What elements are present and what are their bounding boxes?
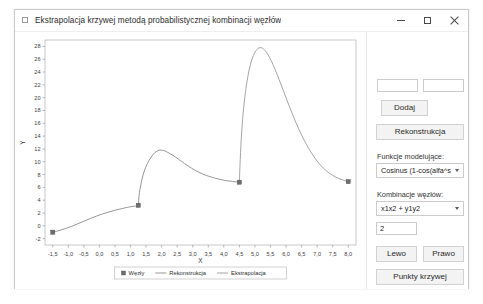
x-tick-label: -0,5 <box>79 251 89 257</box>
x-tick-label: 7,0 <box>313 251 321 257</box>
x-tick-label: 8,0 <box>344 251 352 257</box>
close-icon <box>450 16 459 25</box>
screen: Ekstrapolacja krzywej metodą probabilist… <box>0 0 483 304</box>
right-button[interactable]: Prawo <box>423 246 464 262</box>
y-coordinate-input[interactable] <box>423 79 464 92</box>
x-coordinate-input[interactable] <box>377 79 418 92</box>
node-marker <box>237 180 241 184</box>
y-tick-label: 26 <box>34 56 40 62</box>
add-button[interactable]: Dodaj <box>381 100 428 116</box>
minimize-button[interactable] <box>387 10 414 31</box>
close-button[interactable] <box>441 10 468 31</box>
x-tick-label: -1,0 <box>64 251 74 257</box>
y-tick-label: 10 <box>34 159 40 165</box>
legend-label: Rekonstrukcja <box>169 270 207 276</box>
x-tick-label: 1,5 <box>142 251 150 257</box>
node-marker <box>51 230 55 234</box>
y-tick-label: 28 <box>34 43 40 49</box>
x-tick-label: 2,0 <box>158 251 166 257</box>
reconstruct-button[interactable]: Rekonstrukcja <box>376 124 464 140</box>
title-bar: Ekstrapolacja krzywej metodą probabilist… <box>15 10 468 32</box>
x-tick-label: 3,5 <box>204 251 212 257</box>
chevron-down-icon-2 <box>451 207 463 210</box>
legend-marker <box>122 271 126 275</box>
y-tick-label: 2 <box>37 210 40 216</box>
extrapolation-chart: -1,5-1,0-0,50,00,51,01,52,02,53,03,54,04… <box>17 34 365 281</box>
x-tick-label: 7,5 <box>329 251 337 257</box>
maximize-icon <box>424 17 431 24</box>
x-tick-label: 0,0 <box>96 251 104 257</box>
plot-frame <box>45 40 356 245</box>
x-tick-label: 2,5 <box>173 251 181 257</box>
model-functions-label: Funkcje modelujące: <box>377 152 444 161</box>
y-tick-label: -2 <box>36 236 41 242</box>
node-combination-value: x1x2 + y1y2 <box>377 204 451 213</box>
y-tick-label: 14 <box>34 133 40 139</box>
x-tick-label: 4,5 <box>235 251 243 257</box>
x-tick-label: 6,0 <box>282 251 290 257</box>
node-combination-select[interactable]: x1x2 + y1y2 <box>376 201 464 216</box>
model-functions-select[interactable]: Cosinus (1-cos(alfa^s " ... <box>376 163 464 178</box>
window-title: Ekstrapolacja krzywej metodą probabilist… <box>35 16 281 25</box>
x-tick-label: 3,0 <box>189 251 197 257</box>
y-tick-label: 6 <box>37 184 40 190</box>
maximize-button[interactable] <box>414 10 441 31</box>
x-tick-label: -1,5 <box>48 251 58 257</box>
y-tick-label: 16 <box>34 120 40 126</box>
model-functions-value: Cosinus (1-cos(alfa^s " ... <box>377 166 451 175</box>
app-icon <box>21 16 30 25</box>
x-tick-label: 5,0 <box>251 251 259 257</box>
node-combination-label: Kombinacje węzłów: <box>377 190 443 199</box>
x-tick-label: 5,5 <box>267 251 275 257</box>
parameter-input[interactable] <box>376 222 417 235</box>
node-marker <box>136 203 140 207</box>
node-marker <box>346 179 350 183</box>
app-window: Ekstrapolacja krzywej metodą probabilist… <box>14 9 469 289</box>
legend-label: Ekstrapolacja <box>231 270 267 276</box>
y-tick-label: 0 <box>37 223 40 229</box>
chart-panel: -1,5-1,0-0,50,00,51,01,52,02,53,03,54,04… <box>17 34 365 281</box>
y-tick-label: 24 <box>34 69 40 75</box>
y-tick-label: 4 <box>37 197 40 203</box>
y-tick-label: 18 <box>34 107 40 113</box>
y-tick-label: 12 <box>34 146 40 152</box>
minimize-icon <box>397 20 405 21</box>
client-area: -1,5-1,0-0,50,00,51,01,52,02,53,03,54,04… <box>15 32 468 289</box>
y-tick-label: 22 <box>34 82 40 88</box>
curve-points-button[interactable]: Punkty krzywej <box>376 269 464 285</box>
x-tick-label: 4,0 <box>220 251 228 257</box>
window-controls <box>387 10 468 31</box>
y-tick-label: 20 <box>34 95 40 101</box>
control-panel: Dodaj Rekonstrukcja Funkcje modelujące: … <box>366 32 470 289</box>
x-tick-label: 6,5 <box>298 251 306 257</box>
x-tick-label: 1,0 <box>127 251 135 257</box>
chevron-down-icon <box>451 169 463 172</box>
x-axis-label: X <box>198 257 203 264</box>
y-tick-label: 8 <box>37 172 40 178</box>
x-tick-label: 0,5 <box>111 251 119 257</box>
legend-label: Węzły <box>129 270 145 276</box>
left-button[interactable]: Lewo <box>376 246 417 262</box>
y-axis-label: Y <box>19 140 26 145</box>
